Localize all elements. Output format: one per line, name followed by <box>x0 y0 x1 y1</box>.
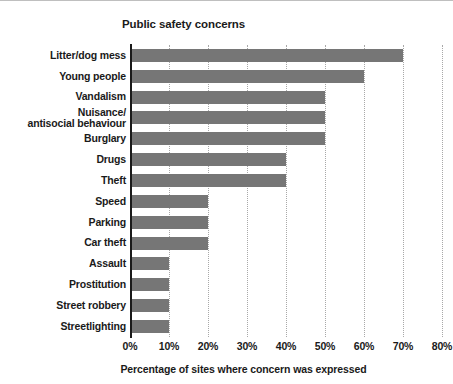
bar-series <box>130 45 442 337</box>
bar-slot <box>130 274 442 295</box>
y-axis-label: Speed <box>0 196 126 208</box>
y-axis-label: Litter/dog mess <box>0 50 126 62</box>
bar[interactable] <box>130 195 208 208</box>
x-axis-tick-label: 70% <box>393 340 413 352</box>
bar[interactable] <box>130 216 208 229</box>
x-axis-tick-label: 0% <box>123 340 138 352</box>
x-axis-tick-label: 30% <box>237 340 257 352</box>
bar[interactable] <box>130 257 169 270</box>
bar[interactable] <box>130 278 169 291</box>
y-axis-label: Theft <box>0 175 126 187</box>
bar-slot <box>130 149 442 170</box>
bar-slot <box>130 170 442 191</box>
x-axis-tick-label: 50% <box>315 340 335 352</box>
y-axis-label: Burglary <box>0 133 126 145</box>
y-axis-label: Streetlighting <box>0 321 126 333</box>
bar-slot <box>130 316 442 337</box>
y-axis-label: Vandalism <box>0 91 126 103</box>
bar-slot <box>130 128 442 149</box>
y-axis-label: Street robbery <box>0 300 126 312</box>
x-axis-title: Percentage of sites where concern was ex… <box>0 363 453 375</box>
plot-area <box>130 45 442 337</box>
bar[interactable] <box>130 299 169 312</box>
bar-slot <box>130 212 442 233</box>
bar-slot <box>130 254 442 275</box>
bar-slot <box>130 87 442 108</box>
x-axis-tick-label: 10% <box>159 340 179 352</box>
bar-slot <box>130 108 442 129</box>
bar[interactable] <box>130 174 286 187</box>
y-axis-label: Young people <box>0 71 126 83</box>
x-axis-tick-label: 20% <box>198 340 218 352</box>
bar[interactable] <box>130 91 325 104</box>
bar[interactable] <box>130 320 169 333</box>
bar-slot <box>130 66 442 87</box>
x-axis-tick-label: 80% <box>432 340 452 352</box>
chart-title: Public safety concerns <box>122 18 422 36</box>
bar[interactable] <box>130 132 325 145</box>
bar[interactable] <box>130 49 403 62</box>
bar-slot <box>130 233 442 254</box>
y-axis-category-labels: Litter/dog messYoung peopleVandalismNuis… <box>0 45 126 337</box>
bar-slot <box>130 191 442 212</box>
gridline <box>442 45 443 337</box>
y-axis-label: Nuisance/ antisocial behaviour <box>0 107 126 130</box>
chart-figure: Public safety concerns Litter/dog messYo… <box>0 0 453 384</box>
y-axis-label: Assault <box>0 258 126 270</box>
bar-slot <box>130 45 442 66</box>
x-axis-tick-label: 60% <box>354 340 374 352</box>
y-axis-line <box>130 44 132 338</box>
x-axis-tick-label: 40% <box>276 340 296 352</box>
y-axis-label: Prostitution <box>0 279 126 291</box>
bar[interactable] <box>130 70 364 83</box>
x-axis-tick-labels: 0%10%20%30%40%50%60%70%80% <box>130 340 442 356</box>
bar[interactable] <box>130 237 208 250</box>
bar[interactable] <box>130 111 325 124</box>
bar-slot <box>130 295 442 316</box>
y-axis-label: Car theft <box>0 237 126 249</box>
bar[interactable] <box>130 153 286 166</box>
y-axis-label: Parking <box>0 217 126 229</box>
y-axis-label: Drugs <box>0 154 126 166</box>
